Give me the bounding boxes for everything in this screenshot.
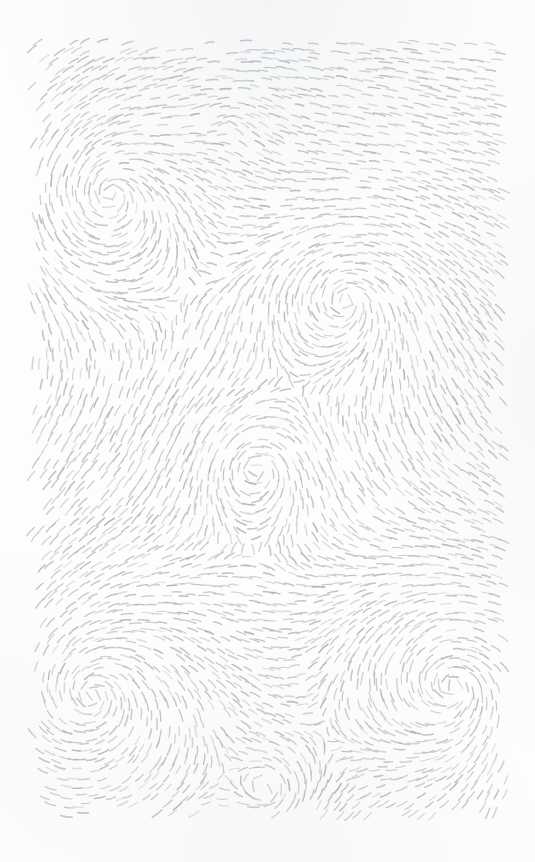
dash-stroke-layer (27, 38, 510, 820)
artboard: Flow Field Dash Pattern (0, 0, 535, 862)
flow-field-canvas (0, 0, 535, 862)
